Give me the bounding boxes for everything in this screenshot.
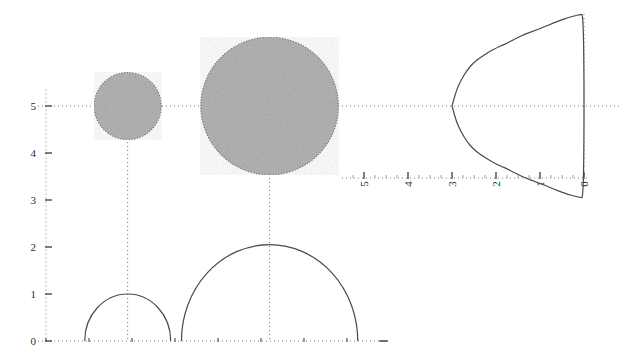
plot-svg: 012345 543210	[0, 0, 619, 360]
side-tick-label-3: 3	[446, 181, 458, 187]
y-tick-label-5: 5	[31, 100, 37, 112]
figure-canvas: 012345 543210	[0, 0, 619, 360]
small-disk	[94, 72, 161, 139]
y-tick-label-2: 2	[31, 241, 37, 253]
side-tick-label-5: 5	[358, 181, 370, 187]
main-panel: 012345	[31, 37, 619, 347]
side-tick-label-4: 4	[402, 181, 414, 187]
y-tick-label-4: 4	[31, 147, 37, 159]
side-tick-label-2: 2	[490, 181, 502, 187]
side-tick-label-0: 0	[578, 181, 590, 187]
small-semicircle	[85, 294, 171, 341]
y-tick-label-0: 0	[31, 335, 37, 347]
y-tick-label-1: 1	[31, 288, 37, 300]
large-disk	[201, 37, 339, 175]
y-tick-label-3: 3	[31, 194, 37, 206]
